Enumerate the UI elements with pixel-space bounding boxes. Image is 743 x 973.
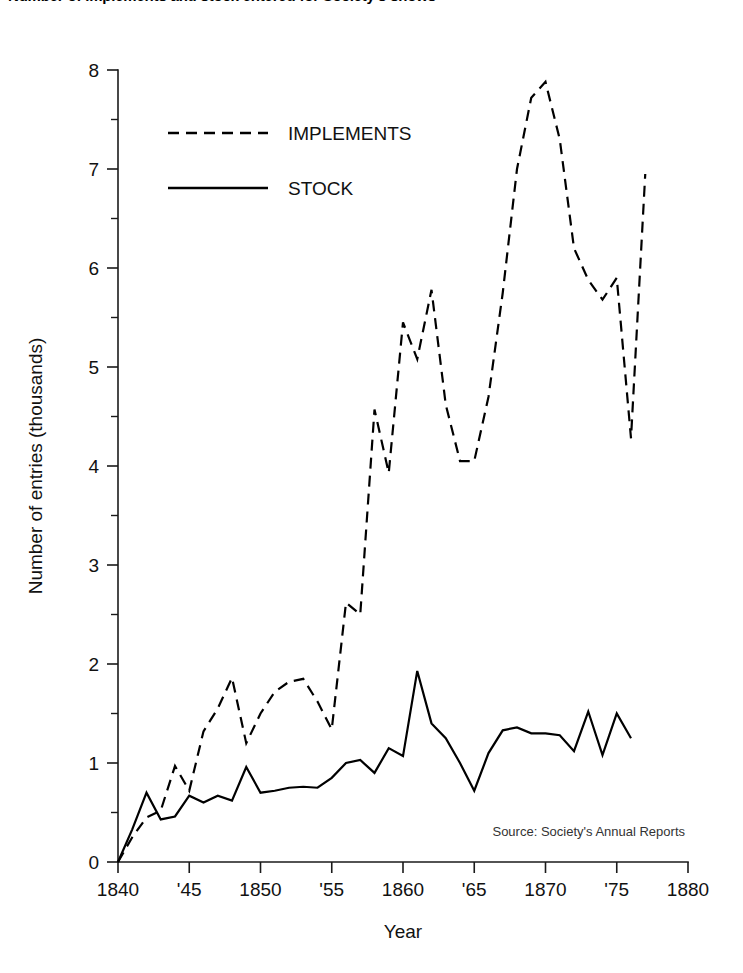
x-tick-label: '45 <box>177 879 202 900</box>
x-axis-tick-labels: 1840'451850'551860'651870'751880 <box>97 879 709 900</box>
y-tick-label: 8 <box>88 60 99 81</box>
y-axis-title: Number of entries (thousands) <box>25 338 46 595</box>
source-annotation: Source: Society's Annual Reports <box>492 824 685 839</box>
x-tick-label: 1840 <box>97 879 139 900</box>
x-tick-label: 1850 <box>239 879 281 900</box>
x-tick-label: '75 <box>604 879 629 900</box>
x-tick-label: '55 <box>319 879 344 900</box>
x-tick-label: 1860 <box>382 879 424 900</box>
y-axis-tick-labels: 012345678 <box>88 60 99 873</box>
chart-legend: IMPLEMENTS STOCK <box>168 123 412 199</box>
chart-plot-area: 012345678 1840'451850'551860'651870'7518… <box>0 0 743 973</box>
y-tick-label: 2 <box>88 654 99 675</box>
data-series-group <box>118 82 645 862</box>
legend-label-implements: IMPLEMENTS <box>288 123 412 144</box>
y-tick-label: 7 <box>88 159 99 180</box>
chart-figure: Number of implements and stock entered f… <box>0 0 743 973</box>
y-tick-label: 6 <box>88 258 99 279</box>
x-tick-label: 1880 <box>667 879 709 900</box>
y-tick-label: 4 <box>88 456 99 477</box>
x-tick-label: '65 <box>462 879 487 900</box>
x-axis-title: Year <box>384 921 423 942</box>
y-tick-label: 3 <box>88 555 99 576</box>
y-tick-label: 1 <box>88 753 99 774</box>
series-line-implements <box>118 82 645 862</box>
x-axis-ticks <box>118 862 688 873</box>
y-axis-ticks <box>107 70 118 862</box>
y-tick-label: 0 <box>88 852 99 873</box>
x-tick-label: 1870 <box>524 879 566 900</box>
y-tick-label: 5 <box>88 357 99 378</box>
legend-label-stock: STOCK <box>288 178 353 199</box>
